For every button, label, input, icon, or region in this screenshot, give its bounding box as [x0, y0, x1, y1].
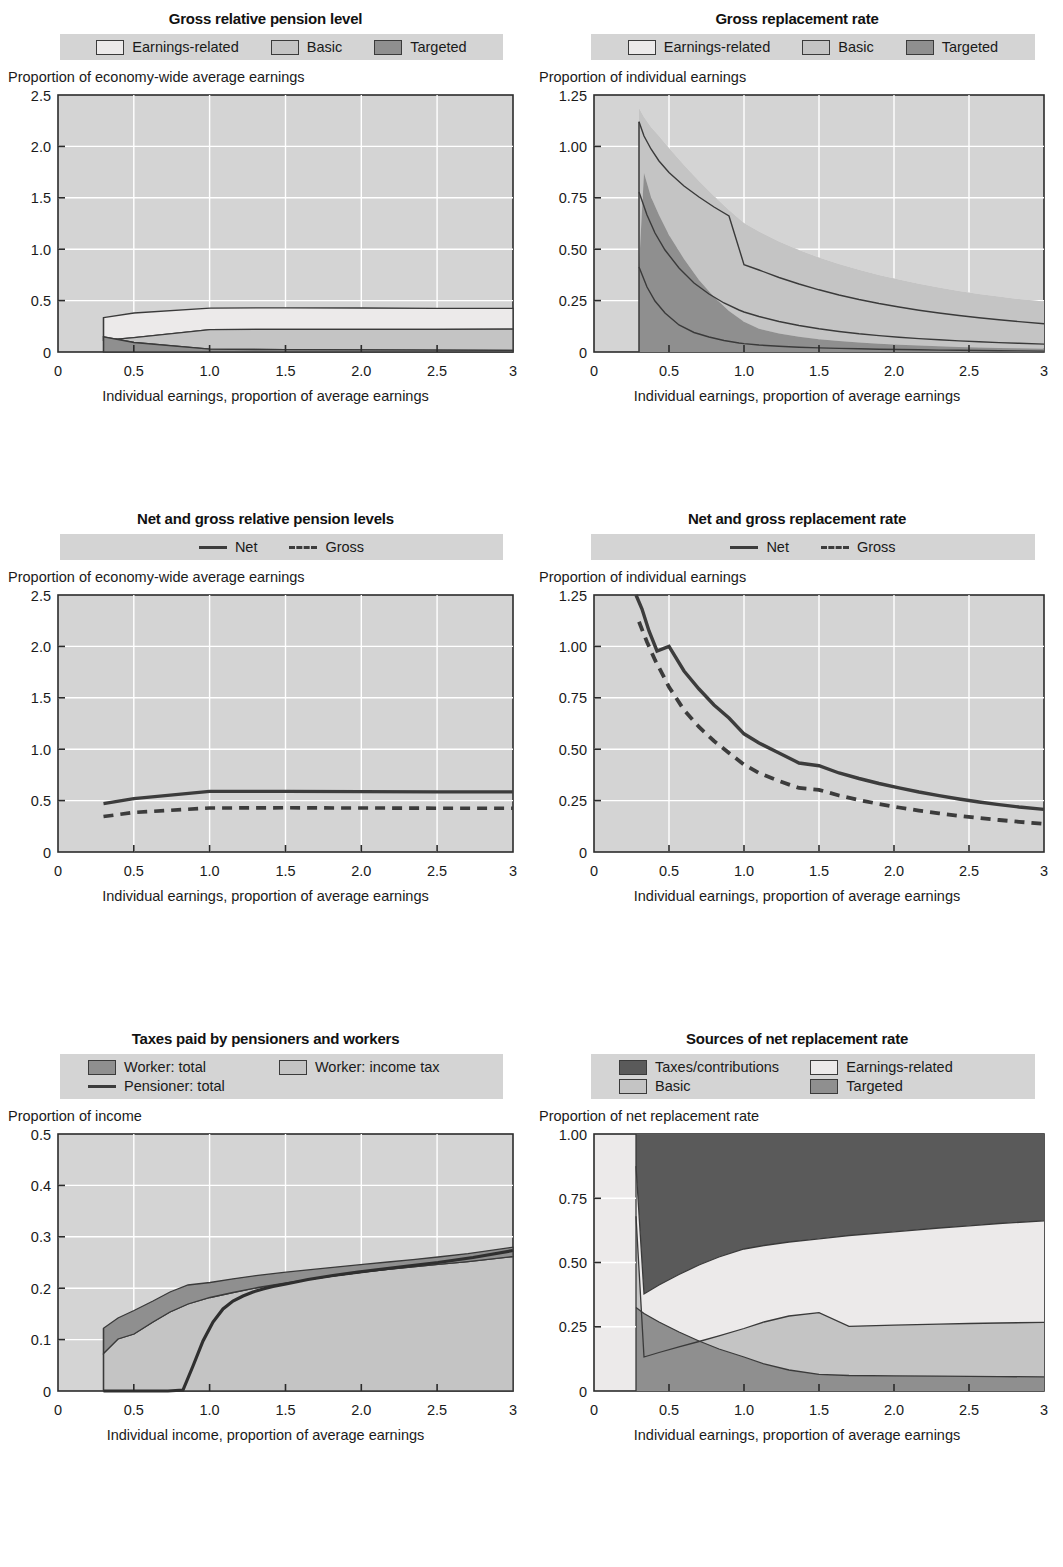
- legend-swatch-icon: [374, 40, 402, 55]
- legend-swatch-icon: [619, 1060, 647, 1075]
- y-axis-title: Proportion of economy-wide average earni…: [8, 69, 531, 85]
- x-tick-label: 2.5: [959, 1402, 979, 1418]
- y-tick-label: 0.50: [559, 242, 587, 258]
- x-axis-title: Individual earnings, proportion of avera…: [531, 1427, 1063, 1443]
- x-tick-label: 1.0: [734, 363, 754, 379]
- chart-svg: 0 0.5 1.0 1.5 2.0 2.5 0 0.5 1.0 1.5 2.0 …: [8, 87, 523, 387]
- legend-item-gross[interactable]: Gross: [289, 539, 364, 555]
- chart-legend: Earnings-related Basic Targeted: [60, 34, 503, 60]
- x-tick-label: 1.0: [734, 863, 754, 879]
- y-tick-label: 0: [43, 345, 51, 361]
- legend-item-targeted[interactable]: Targeted: [906, 39, 998, 55]
- y-tick-label: 0.5: [31, 293, 51, 309]
- x-tick-label: 2.5: [427, 863, 447, 879]
- x-tick-label: 2.5: [427, 363, 447, 379]
- legend-item-gross[interactable]: Gross: [821, 539, 896, 555]
- y-tick-label: 0.25: [559, 1319, 587, 1335]
- y-tick-label: 1.25: [559, 88, 587, 104]
- y-tick-label: 0.5: [31, 1127, 51, 1143]
- x-tick-label: 2.0: [884, 1402, 904, 1418]
- chart-svg: 0 0.25 0.50 0.75 1.00 1.25 0 0.5 1.0 1.5…: [539, 87, 1055, 387]
- panel-taxes-paid-by-pensioners-and-workers: Taxes paid by pensioners and workers Wor…: [0, 1020, 531, 1567]
- y-tick-label: 1.5: [31, 690, 51, 706]
- solid-line-icon: [88, 1085, 116, 1088]
- y-tick-label: 0.75: [559, 690, 587, 706]
- legend-item-pensioner-total[interactable]: Pensioner: total: [88, 1078, 279, 1094]
- legend-item-net[interactable]: Net: [730, 539, 789, 555]
- legend-item-earnings-related[interactable]: Earnings-related: [810, 1059, 1001, 1075]
- y-axis-title: Proportion of net replacement rate: [539, 1108, 1063, 1124]
- legend-item-basic[interactable]: Basic: [802, 39, 873, 55]
- y-tick-label: 2.5: [31, 588, 51, 604]
- chart-svg: 0 0.5 1.0 1.5 2.0 2.5 0 0.5 1.0 1.5 2.0 …: [8, 587, 523, 887]
- x-tick-label: 1.5: [275, 363, 295, 379]
- y-tick-label: 0.25: [559, 293, 587, 309]
- legend-item-targeted[interactable]: Targeted: [810, 1078, 1001, 1094]
- x-tick-label: 2.0: [351, 1402, 371, 1418]
- panel-gross-relative-pension-level: Gross relative pension level Earnings-re…: [0, 0, 531, 500]
- chart-title: Taxes paid by pensioners and workers: [0, 1028, 531, 1050]
- legend-label: Earnings-related: [846, 1059, 952, 1075]
- x-tick-label: 1.5: [809, 1402, 829, 1418]
- y-tick-label: 0.75: [559, 190, 587, 206]
- chart-svg: 0 0.25 0.50 0.75 1.00 0 0.5 1.0 1.5 2.0 …: [539, 1126, 1055, 1426]
- chart-legend: Worker: total Worker: income tax Pension…: [60, 1054, 503, 1099]
- x-tick-label: 1.5: [809, 363, 829, 379]
- legend-swatch-icon: [88, 1060, 116, 1075]
- x-tick-label: 1.0: [200, 1402, 220, 1418]
- legend-label: Worker: total: [124, 1059, 206, 1075]
- y-tick-label: 0: [43, 1384, 51, 1400]
- panel-net-and-gross-relative-pension-levels: Net and gross relative pension levels Ne…: [0, 500, 531, 1020]
- chart-legend: Taxes/contributions Earnings-related Bas…: [591, 1054, 1035, 1099]
- legend-item-earnings-related[interactable]: Earnings-related: [628, 39, 770, 55]
- legend-item-worker-total[interactable]: Worker: total: [88, 1059, 279, 1075]
- x-tick-label: 1.0: [734, 1402, 754, 1418]
- legend-item-earnings-related[interactable]: Earnings-related: [96, 39, 238, 55]
- legend-label: Gross: [325, 539, 364, 555]
- x-tick-label: 2.0: [884, 863, 904, 879]
- panel-net-and-gross-replacement-rate: Net and gross replacement rate Net Gross…: [531, 500, 1063, 1020]
- legend-label: Gross: [857, 539, 896, 555]
- legend-item-basic[interactable]: Basic: [271, 39, 342, 55]
- legend-item-targeted[interactable]: Targeted: [374, 39, 466, 55]
- y-axis-title: Proportion of economy-wide average earni…: [8, 569, 531, 585]
- legend-swatch-icon: [271, 40, 299, 55]
- x-tick-label: 0: [590, 1402, 598, 1418]
- x-tick-label: 2.0: [884, 363, 904, 379]
- plot-area: 0 0.5 1.0 1.5 2.0 2.5 0 0.5 1.0 1.5 2.0 …: [8, 87, 531, 387]
- x-tick-label: 3: [1040, 863, 1048, 879]
- y-tick-label: 0.5: [31, 793, 51, 809]
- legend-item-worker-income-tax[interactable]: Worker: income tax: [279, 1059, 470, 1075]
- y-tick-label: 1.00: [559, 139, 587, 155]
- legend-item-taxes-contributions[interactable]: Taxes/contributions: [619, 1059, 810, 1075]
- legend-label: Earnings-related: [132, 39, 238, 55]
- x-axis-title: Individual earnings, proportion of avera…: [531, 388, 1063, 404]
- chart-legend: Earnings-related Basic Targeted: [591, 34, 1035, 60]
- legend-label: Basic: [655, 1078, 690, 1094]
- y-tick-label: 1.00: [559, 639, 587, 655]
- y-tick-label: 1.25: [559, 588, 587, 604]
- x-tick-label: 0.5: [124, 363, 144, 379]
- legend-item-basic[interactable]: Basic: [619, 1078, 810, 1094]
- x-tick-label: 1.0: [200, 363, 220, 379]
- chart-legend: Net Gross: [60, 534, 503, 560]
- x-tick-label: 2.5: [427, 1402, 447, 1418]
- panel-sources-of-net-replacement-rate: Sources of net replacement rate Taxes/co…: [531, 1020, 1063, 1567]
- plot-area: 0 0.1 0.2 0.3 0.4 0.5 0 0.5 1.0 1.5 2.0 …: [8, 1126, 531, 1426]
- y-axis-title: Proportion of income: [8, 1108, 531, 1124]
- y-tick-label: 1.00: [559, 1127, 587, 1143]
- x-tick-label: 0.5: [659, 863, 679, 879]
- x-axis-title: Individual earnings, proportion of avera…: [0, 888, 531, 904]
- x-tick-label: 0: [590, 863, 598, 879]
- y-tick-label: 0: [579, 345, 587, 361]
- y-tick-label: 0: [579, 845, 587, 861]
- y-tick-label: 0: [579, 1384, 587, 1400]
- x-tick-label: 0.5: [659, 1402, 679, 1418]
- x-tick-label: 0: [54, 1402, 62, 1418]
- legend-label: Targeted: [846, 1078, 902, 1094]
- x-tick-label: 0: [54, 863, 62, 879]
- legend-label: Targeted: [942, 39, 998, 55]
- legend-item-net[interactable]: Net: [199, 539, 258, 555]
- chart-title: Net and gross relative pension levels: [0, 508, 531, 530]
- legend-swatch-icon: [279, 1060, 307, 1075]
